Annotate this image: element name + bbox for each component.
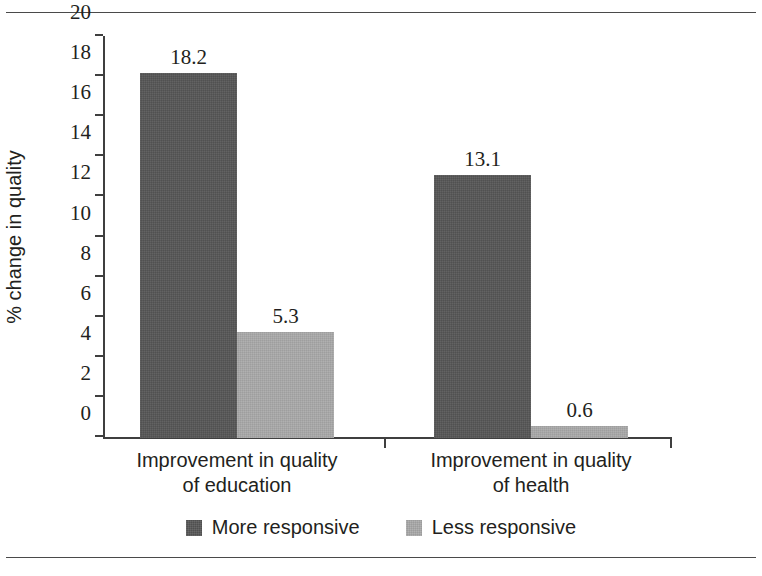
legend-swatch-less-responsive-icon <box>406 520 422 536</box>
bar-education-less-responsive <box>237 332 334 438</box>
category-label-health-line2: of health <box>430 473 631 498</box>
y-tick-label-8: 8 <box>81 240 92 265</box>
legend-label-less-responsive: Less responsive <box>432 516 577 539</box>
y-tick-18 <box>95 74 103 76</box>
category-label-education: Improvement in quality of education <box>136 448 337 498</box>
bar-label-health-more-responsive: 13.1 <box>464 147 501 172</box>
category-label-health: Improvement in quality of health <box>430 448 631 498</box>
y-tick-4 <box>95 355 103 357</box>
y-tick-label-18: 18 <box>70 40 91 65</box>
y-axis-title: % change in quality <box>3 150 26 323</box>
y-tick-12 <box>95 194 103 196</box>
y-tick-10 <box>95 235 103 237</box>
category-label-education-line2: of education <box>136 473 337 498</box>
bar-chart-figure: % change in quality 20 18 16 14 12 10 8 … <box>0 0 762 576</box>
y-tick-label-14: 14 <box>70 120 91 145</box>
y-tick-16 <box>95 114 103 116</box>
y-tick-0 <box>95 435 103 437</box>
category-label-health-line1: Improvement in quality <box>430 448 631 473</box>
y-tick-label-2: 2 <box>81 360 92 385</box>
y-tick-label-12: 12 <box>70 160 91 185</box>
y-tick-label-0: 0 <box>81 401 92 426</box>
chart-legend: More responsive Less responsive <box>0 516 762 539</box>
y-tick-2 <box>95 395 103 397</box>
bar-label-education-less-responsive: 5.3 <box>272 304 298 329</box>
legend-item-more-responsive: More responsive <box>186 516 360 539</box>
y-tick-label-20: 20 <box>70 0 91 25</box>
x-axis-end-tick <box>670 437 672 448</box>
x-axis-group-separator-tick <box>384 437 386 448</box>
legend-item-less-responsive: Less responsive <box>406 516 577 539</box>
figure-top-rule <box>6 12 756 13</box>
y-tick-8 <box>95 275 103 277</box>
y-tick-label-4: 4 <box>81 320 92 345</box>
category-label-education-line1: Improvement in quality <box>136 448 337 473</box>
bar-label-education-more-responsive: 18.2 <box>170 45 207 70</box>
bar-health-more-responsive <box>434 175 531 438</box>
figure-bottom-rule <box>6 557 756 558</box>
y-tick-14 <box>95 154 103 156</box>
y-tick-20 <box>95 34 103 36</box>
legend-label-more-responsive: More responsive <box>212 516 360 539</box>
bar-label-health-less-responsive: 0.6 <box>566 398 592 423</box>
plot-area: 20 18 16 14 12 10 8 6 4 2 0 18.2 5.3 13.… <box>103 37 670 438</box>
legend-swatch-more-responsive-icon <box>186 520 202 536</box>
bar-education-more-responsive <box>140 73 237 438</box>
bar-health-less-responsive <box>531 426 628 438</box>
y-tick-label-16: 16 <box>70 80 91 105</box>
y-tick-label-10: 10 <box>70 200 91 225</box>
y-tick-6 <box>95 315 103 317</box>
y-tick-label-6: 6 <box>81 280 92 305</box>
